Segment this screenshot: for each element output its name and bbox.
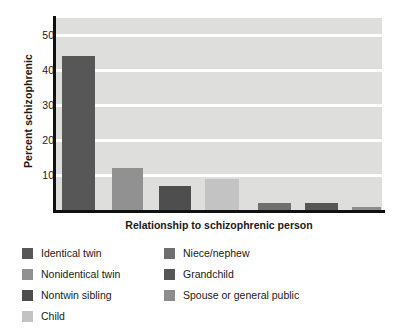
y-axis-line xyxy=(53,16,56,212)
bar xyxy=(305,203,338,210)
bar-series xyxy=(56,18,382,210)
bar-chart-figure: Percent schizophrenic 1020304050 Relatio… xyxy=(0,0,398,335)
legend-item-label: Nontwin sibling xyxy=(41,290,112,301)
legend-column-left: Identical twinNonidentical twinNontwin s… xyxy=(22,243,172,327)
bar xyxy=(258,203,291,210)
legend-swatch-icon xyxy=(22,248,33,259)
chart-legend: Identical twinNonidentical twinNontwin s… xyxy=(0,243,398,329)
legend-item: Grandchild xyxy=(164,264,384,285)
legend-item: Nontwin sibling xyxy=(22,285,172,306)
plot-area xyxy=(56,18,382,210)
bar xyxy=(112,168,143,210)
legend-swatch-icon xyxy=(164,248,175,259)
legend-swatch-icon xyxy=(22,269,33,280)
legend-item-label: Nonidentical twin xyxy=(41,269,120,280)
legend-item-label: Niece/nephew xyxy=(183,248,250,259)
legend-item-label: Identical twin xyxy=(41,248,102,259)
y-axis-tick-labels: 1020304050 xyxy=(30,18,54,210)
legend-item: Spouse or general public xyxy=(164,285,384,306)
legend-swatch-icon xyxy=(164,290,175,301)
x-axis-line xyxy=(53,210,385,213)
legend-item-label: Child xyxy=(41,311,65,322)
legend-item: Niece/nephew xyxy=(164,243,384,264)
bar xyxy=(159,186,191,210)
x-axis-title: Relationship to schizophrenic person xyxy=(56,219,382,231)
legend-item: Nonidentical twin xyxy=(22,264,172,285)
legend-swatch-icon xyxy=(22,311,33,322)
bar xyxy=(62,56,95,210)
legend-swatch-icon xyxy=(22,290,33,301)
legend-item-label: Spouse or general public xyxy=(183,290,299,301)
bar xyxy=(205,179,239,210)
legend-swatch-icon xyxy=(164,269,175,280)
legend-item-label: Grandchild xyxy=(183,269,234,280)
legend-column-right: Niece/nephewGrandchildSpouse or general … xyxy=(164,243,384,306)
legend-item: Child xyxy=(22,306,172,327)
legend-item: Identical twin xyxy=(22,243,172,264)
